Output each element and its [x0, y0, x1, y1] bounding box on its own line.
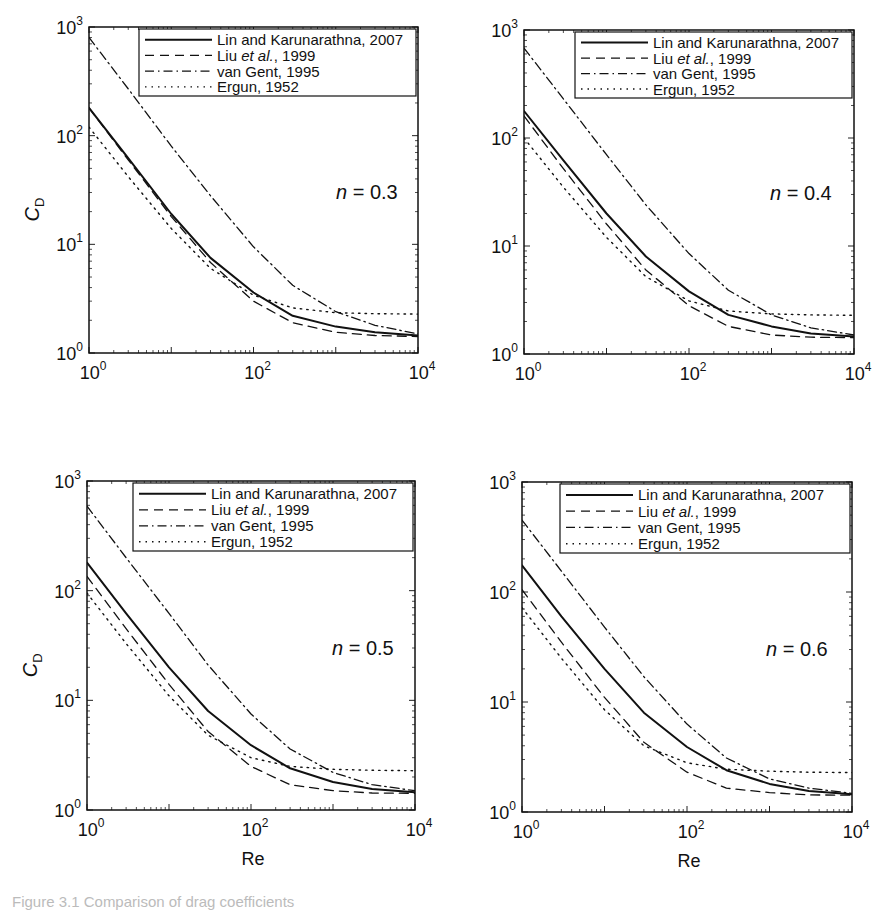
x-tick-label: 104	[409, 359, 436, 383]
legend-label: van Gent, 1995	[211, 517, 314, 534]
y-tick-label: 102	[54, 578, 81, 602]
y-axis-label: CD	[21, 198, 47, 222]
x-axis-label: Re	[241, 849, 264, 869]
legend-label: van Gent, 1995	[638, 519, 741, 536]
legend-label: van Gent, 1995	[217, 63, 320, 80]
chart-panel-3: 100101102103100102104CDRen = 0.5Lin and …	[19, 468, 433, 869]
x-tick-label: 104	[843, 818, 870, 842]
x-tick-label: 104	[845, 360, 872, 384]
legend-label: Ergun, 1952	[653, 81, 735, 98]
series-line-dashed	[522, 590, 852, 796]
series-line-dotted	[524, 138, 854, 315]
y-tick-label: 103	[54, 468, 81, 492]
y-tick-label: 102	[491, 125, 518, 149]
legend-label: Liu et al., 1999	[211, 501, 309, 518]
legend-label: van Gent, 1995	[653, 65, 756, 82]
y-tick-label: 101	[489, 689, 516, 713]
x-tick-label: 104	[406, 816, 433, 840]
y-tick-label: 103	[491, 17, 518, 41]
x-tick-label: 100	[80, 359, 107, 383]
porosity-annotation: n = 0.6	[766, 638, 828, 660]
chart-panel-2: 100101102103100102104n = 0.4Lin and Karu…	[491, 17, 871, 384]
series-line-dashed	[524, 116, 854, 338]
y-tick-label: 100	[491, 341, 518, 365]
legend: Lin and Karunarathna, 2007Liu et al., 19…	[139, 29, 416, 96]
y-tick-label: 103	[56, 14, 83, 38]
series-line-dashed	[87, 576, 415, 793]
y-tick-label: 100	[489, 799, 516, 823]
legend-label: Liu et al., 1999	[653, 50, 751, 67]
chart-panel-4: 100101102103100102104Ren = 0.6Lin and Ka…	[489, 469, 869, 871]
y-tick-label: 102	[489, 579, 516, 603]
series-line-solid	[524, 111, 854, 337]
y-tick-label: 100	[56, 340, 83, 364]
legend: Lin and Karunarathna, 2007Liu et al., 19…	[133, 483, 413, 551]
y-tick-label: 101	[491, 233, 518, 257]
series-line-solid	[522, 565, 852, 794]
x-tick-label: 100	[513, 818, 540, 842]
y-tick-label: 101	[56, 231, 83, 255]
legend: Lin and Karunarathna, 2007Liu et al., 19…	[575, 32, 852, 98]
x-tick-label: 102	[242, 816, 269, 840]
legend-label: Ergun, 1952	[638, 535, 720, 552]
y-tick-label: 101	[54, 687, 81, 711]
legend-label: Lin and Karunarathna, 2007	[217, 31, 403, 48]
x-tick-label: 102	[680, 360, 707, 384]
legend-label: Lin and Karunarathna, 2007	[211, 485, 397, 502]
y-tick-label: 102	[56, 123, 83, 147]
x-tick-label: 102	[244, 359, 271, 383]
legend-label: Lin and Karunarathna, 2007	[653, 34, 839, 51]
figure-caption: Figure 3.1 Comparison of drag coefficien…	[12, 893, 294, 910]
legend-label: Ergun, 1952	[217, 78, 299, 95]
chart-panel-1: 100101102103100102104CDn = 0.3Lin and Ka…	[21, 14, 436, 383]
x-tick-label: 100	[515, 360, 542, 384]
series-line-dashed	[89, 108, 418, 337]
x-tick-label: 100	[78, 816, 105, 840]
y-axis-label: CD	[19, 653, 45, 677]
legend-label: Ergun, 1952	[211, 533, 293, 550]
y-tick-label: 103	[489, 469, 516, 493]
x-tick-label: 102	[678, 818, 705, 842]
y-tick-label: 100	[54, 797, 81, 821]
series-line-dotted	[89, 127, 418, 314]
porosity-annotation: n = 0.3	[336, 181, 398, 203]
legend-label: Liu et al., 1999	[638, 503, 736, 520]
x-axis-label: Re	[677, 851, 700, 871]
porosity-annotation: n = 0.5	[332, 637, 394, 659]
legend-label: Lin and Karunarathna, 2007	[638, 486, 824, 503]
legend-label: Liu et al., 1999	[217, 47, 315, 64]
legend: Lin and Karunarathna, 2007Liu et al., 19…	[560, 484, 850, 553]
porosity-annotation: n = 0.4	[770, 182, 832, 204]
